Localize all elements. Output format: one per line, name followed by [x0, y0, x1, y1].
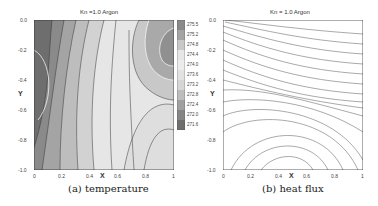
- y-tick: 0.0: [20, 17, 27, 23]
- y-tick: 0.0: [209, 17, 216, 23]
- x-axis-label: X: [100, 172, 105, 179]
- caption-temperature: (a) temperature: [68, 183, 149, 194]
- x-tick: 0.2: [58, 173, 65, 179]
- x-tick: 0.8: [331, 173, 338, 179]
- x-tick: 0.8: [142, 173, 149, 179]
- y-axis-label: Y: [210, 90, 215, 97]
- streamline-plot: [223, 20, 363, 170]
- x-tick: 1: [361, 173, 364, 179]
- y-tick: -0.4: [207, 77, 216, 83]
- plot-title: Kn = 1.0 Argon: [270, 9, 310, 15]
- x-tick: 0.6: [303, 173, 310, 179]
- x-tick: 0.4: [86, 173, 93, 179]
- y-tick: -0.6: [18, 107, 27, 113]
- y-tick: -0.4: [18, 77, 27, 83]
- panel-heat-flux: Kn = 1.0 Argon 0.0 -0.2 -0.4 -0.6 -0.8 -…: [190, 0, 378, 206]
- y-tick: -1.0: [18, 167, 27, 173]
- x-axis-label: X: [289, 172, 294, 179]
- x-tick: 0: [33, 173, 36, 179]
- y-tick: -0.2: [18, 47, 27, 53]
- caption-heat-flux: (b) heat flux: [262, 183, 324, 194]
- y-tick: -1.0: [207, 167, 216, 173]
- colorbar: [177, 20, 185, 130]
- contour-plot: [34, 20, 174, 170]
- y-tick: -0.8: [18, 137, 27, 143]
- x-tick: 0: [222, 173, 225, 179]
- x-tick: 0.2: [247, 173, 254, 179]
- y-axis-label: Y: [18, 90, 23, 97]
- x-tick: 0.4: [275, 173, 282, 179]
- x-tick: 1: [172, 173, 175, 179]
- y-tick: -0.2: [207, 47, 216, 53]
- panel-temperature: Kn =1.0 Argon: [0, 0, 190, 206]
- y-tick: -0.6: [207, 107, 216, 113]
- y-tick: -0.8: [207, 137, 216, 143]
- plot-title: Kn =1.0 Argon: [80, 9, 118, 15]
- x-tick: 0.6: [114, 173, 121, 179]
